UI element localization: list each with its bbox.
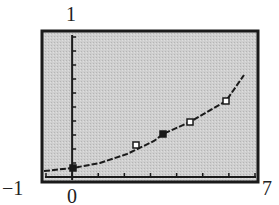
open-square-marker [223, 98, 229, 104]
y-max-label: 1 [66, 4, 76, 24]
open-square-marker [187, 119, 193, 125]
origin-label: 0 [67, 186, 77, 205]
x-min-label: −1 [2, 178, 23, 198]
x-max-label: 7 [262, 178, 272, 198]
open-square-marker [133, 142, 139, 148]
chart-canvas [0, 0, 279, 205]
filled-square-marker [70, 165, 76, 171]
filled-square-marker [160, 131, 166, 137]
